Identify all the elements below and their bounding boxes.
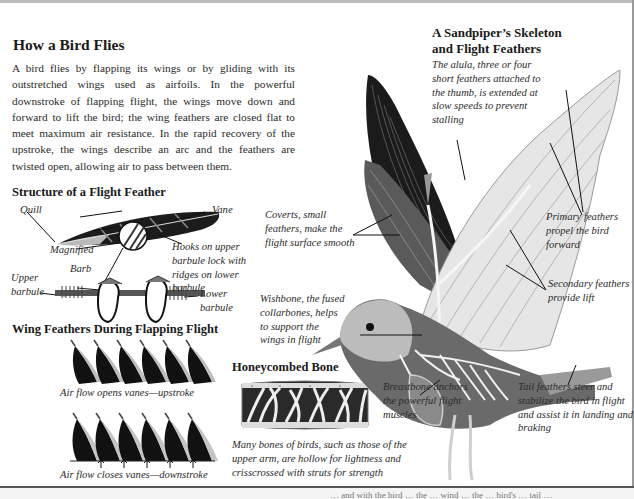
downstroke-caption: Air flow closes vanes—downstroke [60, 468, 208, 482]
next-page-strip: … and with the bird … the … wind … the …… [0, 488, 634, 499]
downstroke-feathers-illustration [65, 413, 215, 463]
label-lower-barbule: Lower barbule [200, 287, 240, 315]
label-quill: Quill [20, 203, 42, 217]
breastbone-caption: Breastbone anchors the powerful flight m… [383, 380, 483, 421]
sandpiper-title-line1: A Sandpiper’s Skeleton [432, 25, 562, 41]
upstroke-feathers-illustration [65, 340, 215, 385]
primary-feathers-caption: Primary feathers propel the bird forward [546, 210, 634, 251]
coverts-caption: Coverts, small feathers, make the flight… [265, 208, 360, 249]
tail-feathers-caption: Tail feathers steer and stabilize the bi… [518, 380, 634, 435]
label-vane: Vane [212, 203, 233, 217]
top-border [0, 0, 634, 3]
wing-feathers-title: Wing Feathers During Flapping Flight [12, 322, 218, 337]
sandpiper-title: A Sandpiper’s Skeleton and Flight Feathe… [432, 25, 562, 57]
cut-off-text: … and with the bird … the … wind … the …… [330, 490, 552, 499]
wishbone-caption: Wishbone, the fused collarbones, helps t… [260, 292, 346, 347]
label-upper-barbule: Upper barbule [11, 271, 51, 299]
upstroke-caption: Air flow opens vanes—upstroke [60, 386, 194, 400]
label-barb: Barb [70, 262, 91, 276]
alula-caption: The alula, three or four short feathers … [432, 58, 542, 127]
intro-paragraph: A bird flies by flapping its wings or by… [12, 60, 295, 174]
secondary-feathers-caption: Secondary feathers provide lift [548, 277, 634, 305]
label-magnified: Magnified [50, 243, 94, 257]
page-title: How a Bird Flies [13, 36, 125, 54]
